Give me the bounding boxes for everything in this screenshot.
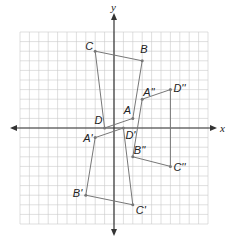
vertex-point bbox=[94, 50, 97, 53]
vertex-point bbox=[84, 194, 87, 197]
vertex-label: D' bbox=[125, 129, 136, 141]
coordinate-plane-diagram: xy ABCDA'B'C'D'A''D''C''B'' bbox=[0, 0, 235, 243]
x-axis-arrow-right-icon bbox=[210, 125, 217, 131]
vertex-label: C bbox=[85, 40, 93, 52]
coordinate-plane: xy ABCDA'B'C'D'A''D''C''B'' bbox=[0, 0, 235, 243]
vertex-label: A' bbox=[82, 132, 93, 144]
vertex-point bbox=[94, 136, 97, 139]
y-axis-label: y bbox=[110, 1, 116, 13]
vertex-label: C' bbox=[136, 204, 147, 216]
vertex-point bbox=[169, 88, 172, 91]
vertex-label: B' bbox=[73, 187, 83, 199]
vertex-point bbox=[169, 165, 172, 168]
vertex-point bbox=[141, 59, 144, 62]
x-axis-arrow-left-icon bbox=[10, 125, 17, 131]
y-axis-arrow-down-icon bbox=[111, 229, 117, 236]
vertex-label: C'' bbox=[173, 161, 186, 173]
y-axis-arrow-up-icon bbox=[111, 13, 117, 20]
vertex-label: D'' bbox=[173, 82, 186, 94]
vertex-point bbox=[131, 203, 134, 206]
x-axis-label: x bbox=[219, 122, 225, 134]
vertex-point bbox=[131, 117, 134, 120]
vertex-label: B'' bbox=[134, 144, 146, 156]
vertex-label: D bbox=[95, 114, 103, 126]
vertex-label: A bbox=[123, 104, 131, 116]
vertex-label: B bbox=[140, 43, 147, 55]
vertex-point bbox=[103, 127, 106, 130]
vertex-label: A'' bbox=[142, 86, 155, 98]
